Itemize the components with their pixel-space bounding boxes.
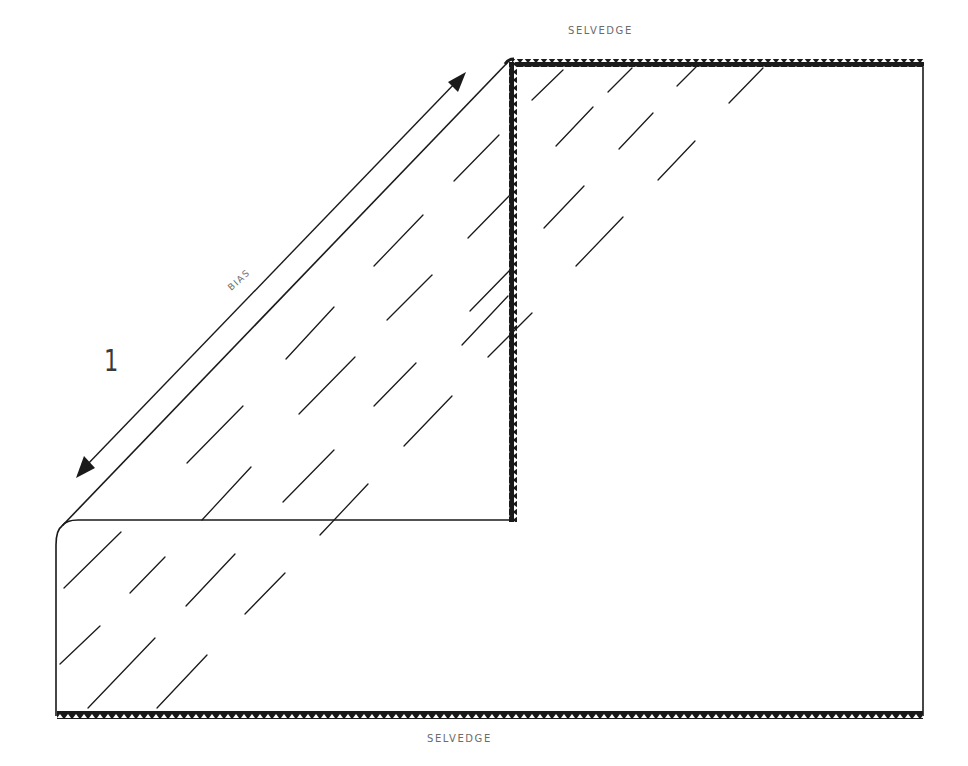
bottom-selvedge-label: SELVEDGE [427, 733, 492, 744]
selvedge-top [505, 59, 924, 67]
step-number: 1 [104, 343, 118, 378]
fabric-outline [56, 62, 923, 716]
selvedge-bottom [57, 711, 923, 719]
bias-arrow[interactable] [76, 72, 466, 478]
arrowhead-up-icon [448, 72, 466, 92]
selvedge-vertical [509, 62, 517, 522]
bias-fold-diagram [0, 0, 968, 766]
top-selvedge-label: SELVEDGE [568, 25, 633, 36]
